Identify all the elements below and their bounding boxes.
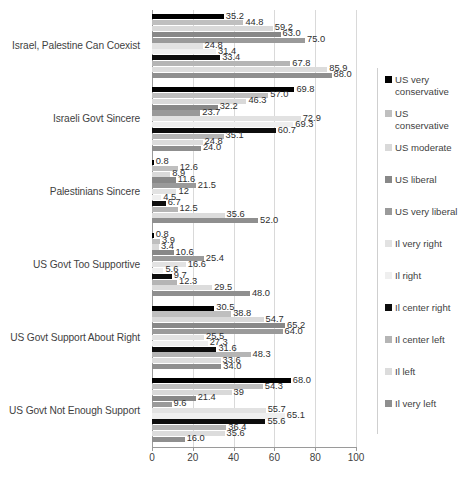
bar-value-label: 88.0 [332, 71, 352, 80]
bar [152, 26, 273, 31]
bar-row: 11.6 [152, 177, 356, 182]
legend-swatch-icon [385, 272, 392, 279]
bar [152, 201, 166, 206]
legend-item[interactable]: Il center right [385, 302, 450, 314]
gridline [356, 10, 357, 447]
bar-group: 30.538.854.765.264.025.527.331.648.333.6… [152, 301, 356, 374]
legend-label: Il very left [395, 398, 436, 410]
bar [152, 347, 216, 352]
legend-item[interactable]: Il very right [385, 238, 442, 250]
bar [152, 425, 226, 430]
legend-item[interactable]: Il left [385, 366, 415, 378]
legend-item[interactable]: Il center left [385, 334, 445, 346]
bar-row: 55.7 [152, 408, 356, 413]
legend-swatch-icon [385, 400, 392, 407]
chart-legend: US very conservativeUS conservativeUS mo… [385, 74, 470, 434]
legend-item[interactable]: US conservative [385, 108, 449, 131]
bar-row: 12 [152, 189, 356, 194]
legend-item[interactable]: US liberal [385, 174, 437, 186]
bar-row: 54.3 [152, 384, 356, 389]
bar [152, 323, 285, 328]
bar [152, 384, 263, 389]
legend-swatch-icon [385, 368, 392, 375]
bar [152, 195, 161, 200]
bar [152, 32, 281, 37]
bar [152, 183, 196, 188]
bar-row: 48.3 [152, 352, 356, 357]
bar-row: 75.0 [152, 38, 356, 43]
bar [152, 317, 264, 322]
bar [152, 146, 201, 151]
bar-value-label: 52.0 [258, 216, 278, 225]
bar [152, 73, 332, 78]
legend-swatch-icon [385, 304, 392, 311]
legend-swatch-icon [385, 144, 392, 151]
bar-row: 25.5 [152, 335, 356, 340]
bar [152, 218, 258, 223]
legend-item[interactable]: US very liberal [385, 206, 457, 218]
bar-row: 72.9 [152, 116, 356, 121]
bar-row: 34.0 [152, 364, 356, 369]
bar-group: 69.857.046.332.223.772.969.360.735.124.8… [152, 83, 356, 156]
x-tick-mark [274, 447, 275, 451]
bar-row: 44.8 [152, 20, 356, 25]
bar [152, 364, 221, 369]
bar [152, 390, 232, 395]
bar [152, 128, 276, 133]
bar-row: 0.8 [152, 233, 356, 238]
bar-row: 54.7 [152, 317, 356, 322]
bar-row: 46.3 [152, 99, 356, 104]
bar [152, 213, 225, 218]
bar [152, 408, 266, 413]
category-label: Israeli Govt Sincere [53, 113, 140, 124]
bar [152, 402, 172, 407]
bar [152, 207, 178, 212]
bar-row: 32.2 [152, 105, 356, 110]
x-tick-mark [234, 447, 235, 451]
x-tick-label: 0 [149, 452, 155, 463]
legend-label: US liberal [395, 174, 437, 186]
legend-item[interactable]: Il very left [385, 398, 436, 410]
bar [152, 110, 200, 115]
bar [152, 172, 170, 177]
bar [152, 306, 214, 311]
bar-row: 12.3 [152, 280, 356, 285]
category-label: Palestinians Sincere [50, 186, 140, 197]
bar-row: 35.1 [152, 134, 356, 139]
bar-row: 48.0 [152, 291, 356, 296]
bar-value-label: 34.0 [221, 362, 241, 371]
x-tick-label: 60 [269, 452, 280, 463]
bar-row: 55.6 [152, 419, 356, 424]
bar-row: 33.6 [152, 358, 356, 363]
bar [152, 291, 250, 296]
bar-row: 88.0 [152, 73, 356, 78]
bar [152, 116, 301, 121]
bar [152, 43, 203, 48]
bar-row: 16.0 [152, 437, 356, 442]
legend-item[interactable]: Il right [385, 270, 421, 282]
bar-row: 36.4 [152, 425, 356, 430]
legend-swatch-icon [385, 110, 392, 117]
x-axis: 020406080100 [152, 447, 356, 469]
bar [152, 244, 159, 249]
bar-row: 64.0 [152, 329, 356, 334]
legend-label: Il center right [395, 302, 450, 314]
bar [152, 268, 163, 273]
legend-divider [377, 68, 378, 434]
bar [152, 419, 265, 424]
bar-row: 27.3 [152, 341, 356, 346]
bar-row: 59.2 [152, 26, 356, 31]
bar [152, 311, 231, 316]
x-tick-label: 40 [228, 452, 239, 463]
bar-value-label: 48.0 [250, 289, 270, 298]
legend-item[interactable]: US moderate [385, 142, 452, 154]
bar-row: 63.0 [152, 32, 356, 37]
legend-item[interactable]: US very conservative [385, 74, 449, 97]
bar-row: 10.6 [152, 250, 356, 255]
bar-row: 69.8 [152, 87, 356, 92]
legend-swatch-icon [385, 76, 392, 83]
bar-group: 0.812.68.911.621.5124.56.712.535.652.0 [152, 156, 356, 229]
bar-row: 23.7 [152, 110, 356, 115]
bar-chart: Israel, Palestine Can CoexistIsraeli Gov… [0, 0, 470, 485]
bar-group: 0.83.93.410.625.416.65.69.712.329.548.0 [152, 229, 356, 302]
